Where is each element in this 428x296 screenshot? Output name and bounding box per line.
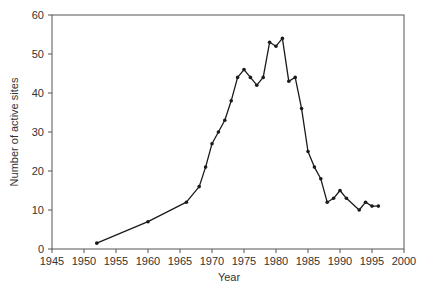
x-tick-label: 1990: [328, 255, 352, 267]
x-tick-label: 1955: [104, 255, 128, 267]
data-point: [325, 200, 329, 204]
y-tick-label: 40: [32, 87, 44, 99]
x-tick-label: 1965: [168, 255, 192, 267]
plot-border: [52, 15, 404, 249]
data-point: [274, 44, 278, 48]
data-point: [236, 76, 240, 80]
data-point: [261, 76, 265, 80]
data-point: [319, 177, 323, 181]
data-point: [210, 142, 214, 146]
x-axis-label: Year: [218, 271, 241, 283]
data-point: [287, 80, 291, 84]
data-point: [268, 41, 272, 45]
data-point: [370, 204, 374, 208]
data-point: [204, 165, 208, 169]
y-tick-label: 20: [32, 165, 44, 177]
x-tick-label: 1945: [40, 255, 64, 267]
data-point: [313, 165, 317, 169]
data-point: [229, 99, 233, 103]
x-tick-label: 2000: [392, 255, 416, 267]
data-point: [377, 204, 381, 208]
y-tick-label: 60: [32, 9, 44, 21]
data-point: [242, 68, 246, 72]
data-point: [300, 107, 304, 111]
data-point: [95, 241, 99, 245]
x-axis: 1945195019551960196519701975198019851990…: [40, 249, 416, 267]
x-tick-label: 1960: [136, 255, 160, 267]
y-tick-label: 10: [32, 204, 44, 216]
data-series: [95, 37, 380, 245]
x-tick-label: 1995: [360, 255, 384, 267]
x-tick-label: 1950: [72, 255, 96, 267]
line-chart: 1945195019551960196519701975198019851990…: [0, 0, 428, 296]
data-point: [357, 208, 361, 212]
data-point: [249, 76, 253, 80]
x-tick-label: 1980: [264, 255, 288, 267]
data-point: [332, 197, 336, 201]
data-point: [146, 220, 150, 224]
data-point: [197, 185, 201, 189]
data-point: [306, 150, 310, 154]
y-axis-label: Number of active sites: [8, 77, 20, 186]
x-tick-label: 1970: [200, 255, 224, 267]
data-point: [223, 119, 227, 123]
y-tick-label: 0: [38, 243, 44, 255]
x-tick-label: 1985: [296, 255, 320, 267]
data-point: [255, 83, 259, 87]
y-tick-label: 50: [32, 48, 44, 60]
data-point: [364, 200, 368, 204]
data-point: [338, 189, 342, 193]
plot-frame: [52, 15, 404, 249]
y-tick-label: 30: [32, 126, 44, 138]
data-point: [345, 197, 349, 201]
data-point: [293, 76, 297, 80]
data-point: [217, 130, 221, 134]
data-point: [281, 37, 285, 41]
data-point: [185, 200, 189, 204]
y-axis: 0102030405060: [32, 9, 52, 255]
x-tick-label: 1975: [232, 255, 256, 267]
series-line: [97, 38, 379, 243]
